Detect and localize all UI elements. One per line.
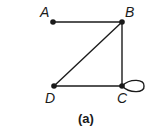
caption: (a) [78, 111, 94, 126]
label-a: A [39, 4, 49, 20]
node-d [51, 83, 57, 89]
label-d: D [45, 90, 55, 106]
node-c [119, 83, 125, 89]
edge-b-d [54, 22, 122, 86]
label-b: B [125, 4, 134, 20]
graph-diagram: A B C D (a) [0, 0, 154, 131]
node-a [50, 19, 56, 25]
node-b [119, 19, 125, 25]
label-c: C [117, 90, 128, 106]
